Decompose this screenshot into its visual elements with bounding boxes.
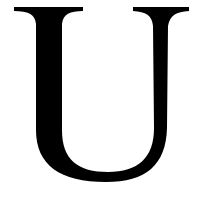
letter-u-glyph: [0, 0, 206, 197]
glyph-canvas: U: [0, 0, 206, 197]
